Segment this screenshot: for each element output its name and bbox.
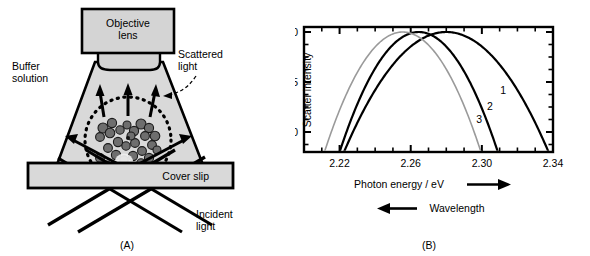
objective-lens-label-line2: lens — [118, 29, 137, 41]
left-arrow-icon — [377, 203, 417, 214]
panel-b-caption: (B) — [422, 239, 436, 251]
x-tick-label: 2.26 — [400, 157, 421, 169]
figure-container: Objective lens Scattered — [0, 0, 590, 256]
curve-3 — [322, 32, 484, 161]
curve-label-3: 3 — [476, 113, 482, 125]
objective-lens-neck — [98, 52, 160, 70]
panel-a-caption: (A) — [120, 239, 134, 251]
y-tick-label: 0.90 — [295, 126, 298, 138]
right-arrow-icon — [467, 179, 511, 190]
scattered-light-label-line2: light — [178, 60, 197, 72]
objective-lens-label-line1: Objective — [106, 17, 150, 29]
x-tick-label: 2.22 — [329, 157, 350, 169]
curve-label-2: 2 — [487, 100, 493, 112]
panel-b-chart: 2.222.262.302.340.900.951.00123 Scatter … — [295, 0, 590, 256]
x-axis-title: Photon energy / eV — [354, 178, 444, 190]
cover-slip-label: Cover slip — [162, 170, 209, 182]
y-tick-label: 0.95 — [295, 76, 298, 88]
incident-light-label-line2: light — [196, 220, 215, 232]
scattered-light-label-line1: Scattered — [178, 48, 223, 60]
buffer-solution-label-line1: Buffer — [12, 60, 40, 72]
y-tick-label: 1.00 — [295, 26, 298, 38]
curve-label-1: 1 — [500, 84, 506, 96]
secondary-axis-title: Wavelength — [429, 202, 484, 214]
curve-2 — [337, 32, 501, 162]
x-tick-label: 2.34 — [543, 157, 564, 169]
buffer-solution-label-line2: solution — [12, 72, 48, 84]
y-axis-title: Scatter intensity — [301, 52, 313, 127]
curves-group — [322, 32, 552, 162]
panel-a-diagram: Objective lens Scattered — [0, 0, 295, 256]
incident-light-label-line1: Incident — [196, 208, 233, 220]
x-tick-label: 2.30 — [472, 157, 493, 169]
